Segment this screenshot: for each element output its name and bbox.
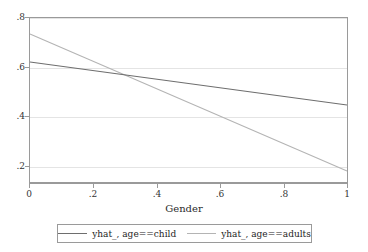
legend-item-child[interactable]: yhat_, age==child	[58, 229, 176, 239]
legend-label-child: yhat_, age==child	[92, 229, 176, 239]
chart-legend: yhat_, age==child yhat_, age==adults	[57, 224, 312, 243]
plot-area	[29, 17, 348, 183]
chart-figure: .8 .6 .4 .2 0 .2 .4 .6 .8 1 Gender yhat_…	[0, 0, 368, 252]
x-tick-1	[347, 184, 348, 188]
x-tick-label-0.8: .8	[272, 190, 296, 199]
x-tick-label-1: 1	[335, 190, 359, 199]
y-tick-label-0.8: .8	[3, 13, 25, 22]
x-axis-title: Gender	[0, 203, 368, 214]
x-tick-label-0.4: .4	[145, 190, 169, 199]
y-tick-label-0.4: .4	[3, 112, 25, 121]
y-tick-label-0.6: .6	[3, 63, 25, 72]
x-tick-label-0.6: .6	[208, 190, 232, 199]
series-line-child	[30, 62, 347, 105]
data-lines	[30, 18, 347, 182]
x-tick-0.6	[220, 184, 221, 188]
y-tick-0.2	[25, 166, 29, 167]
x-tick-0.4	[157, 184, 158, 188]
x-tick-0	[29, 184, 30, 188]
y-tick-label-0.2: .2	[3, 162, 25, 171]
y-tick-0.6	[25, 67, 29, 68]
series-line-adults	[30, 34, 347, 171]
legend-swatch-child	[58, 233, 87, 234]
legend-label-adults: yhat_, age==adults	[221, 229, 311, 239]
legend-item-adults[interactable]: yhat_, age==adults	[187, 229, 311, 239]
x-axis-line	[29, 183, 348, 184]
x-tick-0.8	[284, 184, 285, 188]
x-tick-label-0: 0	[17, 190, 41, 199]
x-tick-0.2	[93, 184, 94, 188]
y-tick-0.8	[25, 17, 29, 18]
legend-swatch-adults	[187, 233, 216, 234]
y-axis-line	[29, 17, 30, 183]
y-tick-0.4	[25, 116, 29, 117]
x-tick-label-0.2: .2	[81, 190, 105, 199]
